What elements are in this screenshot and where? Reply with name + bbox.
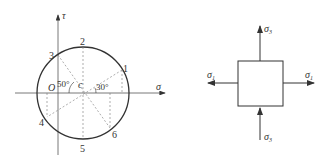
angle-arc-50 — [69, 82, 74, 93]
angle-label-30: 30° — [96, 82, 109, 92]
point-label-3: 3 — [49, 50, 54, 61]
diagram-canvas: τ σ O c 50° 30° 1 2 3 4 5 6 σ3 σ3 σ1 σ1 — [0, 0, 325, 165]
stress-label-bottom: σ3 — [264, 131, 272, 143]
stress-label-top: σ3 — [264, 23, 272, 35]
point-label-4: 4 — [39, 117, 44, 128]
point-label-2: 2 — [80, 36, 85, 47]
point-label-6: 6 — [112, 129, 117, 140]
stress-element-figure: σ3 σ3 σ1 σ1 — [207, 23, 314, 143]
tau-axis-label: τ — [62, 10, 66, 21]
origin-label: O — [48, 82, 55, 93]
mohr-circle-figure: τ σ O c 50° 30° 1 2 3 4 5 6 — [15, 10, 165, 155]
center-label: c — [78, 79, 83, 90]
point-label-5: 5 — [80, 143, 85, 154]
sigma-axis-label: σ — [156, 81, 162, 92]
angle-label-50: 50° — [57, 79, 70, 89]
point-label-1: 1 — [123, 63, 128, 74]
stress-label-right: σ1 — [305, 69, 313, 81]
stress-element-square — [238, 61, 283, 106]
stress-label-left: σ1 — [207, 69, 215, 81]
